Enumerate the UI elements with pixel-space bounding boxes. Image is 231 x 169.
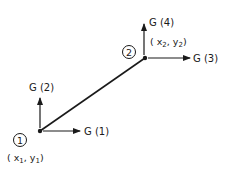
dof-g3-label: G (3) (193, 53, 218, 64)
node-2-number: 2 (126, 47, 132, 58)
element-diagram: G (1) G (2) 1 ( x1, y1) G (3) G (4) 2 ( … (0, 0, 231, 169)
node-2-coordinates: ( x2, y2) (150, 36, 187, 49)
diagram-canvas: G (1) G (2) 1 ( x1, y1) G (3) G (4) 2 ( … (0, 0, 231, 169)
node-1-number: 1 (17, 135, 23, 146)
element-line (40, 58, 145, 131)
node-1-point (38, 129, 42, 133)
node-2-point (143, 56, 147, 60)
dof-g4-label: G (4) (149, 17, 174, 28)
node-1-coordinates: ( x1, y1) (7, 152, 44, 165)
dof-g1-label: G (1) (84, 126, 109, 137)
dof-g2-label: G (2) (29, 82, 54, 93)
